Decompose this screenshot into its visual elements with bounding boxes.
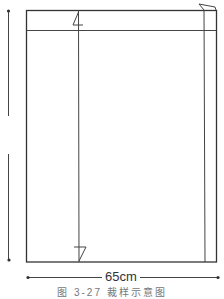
dimension-endpoint — [216, 276, 219, 279]
fold-line-right — [204, 11, 205, 263]
figure-caption: 图 3-27 裁样示意图 — [0, 284, 224, 299]
notch-mark-top — [73, 12, 83, 25]
corner-mark — [199, 4, 216, 10]
dimension-endpoint — [7, 9, 10, 12]
fabric-outline — [27, 11, 217, 263]
dimension-endpoint — [7, 258, 10, 261]
fold-line-left — [79, 11, 80, 263]
notch-mark-bottom — [74, 247, 86, 261]
width-label: 65cm — [104, 270, 138, 284]
dimension-endpoint — [26, 276, 29, 279]
